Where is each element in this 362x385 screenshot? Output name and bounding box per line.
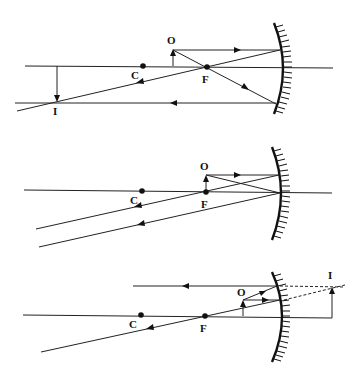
object-label: O [237,286,246,298]
center-label: C [129,318,137,330]
center-of-curvature-point [139,188,145,194]
focus-label: F [201,198,208,210]
diagram-3-object-within-focus: O I C F [23,269,345,362]
reflected-ray-through-focus [17,50,280,111]
focus-label: F [200,322,207,334]
concave-mirror-ray-diagrams: O I C F [0,0,362,385]
ray-arrow-icon [170,100,177,106]
ray-arrow-icon [234,172,241,178]
ray-arrow-icon [241,83,249,90]
ray-arrow-icon [182,283,189,289]
center-label: C [131,69,139,81]
diagram-2-object-at-focus: O C F [24,147,332,247]
ray-arrow-icon [234,47,241,53]
focus-point [202,313,208,319]
incident-ray-through-focus [173,50,276,104]
object-arrowhead-icon [240,300,246,307]
virtual-ray-extension [280,286,345,287]
ray-arrow-icon [146,324,154,330]
image-label: I [53,105,57,117]
ray-arrow-icon [259,291,266,296]
ray-arrow-icon [262,297,269,303]
diagram-1-object-beyond-focus: O I C F [15,23,333,117]
center-label: C [130,194,138,206]
object-label: O [200,160,209,172]
focus-point [203,189,209,195]
ray-arrow-icon [137,220,145,226]
object-label: O [167,34,176,46]
center-of-curvature-point [140,63,146,69]
object-arrowhead-icon [203,175,209,182]
center-of-curvature-point [138,312,144,318]
image-label: I [328,269,332,281]
reflected-ray-through-focus [41,300,280,352]
focus-point [204,64,210,70]
focus-label: F [202,73,209,85]
